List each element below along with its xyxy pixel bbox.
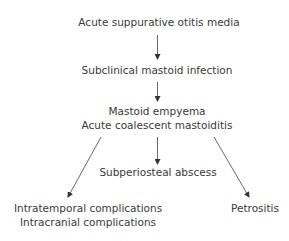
node-acute-suppurative-otitis-media: Acute suppurative otitis media <box>78 16 239 29</box>
node-subperiosteal-abscess: Subperiosteal abscess <box>99 166 216 179</box>
node-intracranial-complications: Intracranial complications <box>20 216 156 229</box>
arrow-empyema-to-petrositis <box>214 137 249 197</box>
arrow-empyema-to-complications <box>68 137 101 197</box>
node-intratemporal-complications: Intratemporal complications <box>14 202 162 215</box>
node-mastoid-empyema: Mastoid empyema <box>108 105 205 118</box>
node-subclinical-mastoid-infection: Subclinical mastoid infection <box>82 64 233 77</box>
node-petrositis: Petrositis <box>231 202 279 215</box>
node-acute-coalescent-mastoiditis: Acute coalescent mastoiditis <box>82 119 233 132</box>
